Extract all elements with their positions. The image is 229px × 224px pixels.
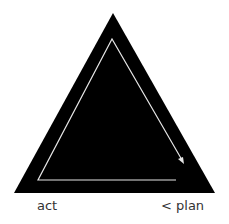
cycle-diagram: consequences reappraisal	[0, 0, 229, 224]
corner-label-act: act	[37, 199, 57, 212]
corner-label-plan: < plan	[161, 199, 204, 212]
